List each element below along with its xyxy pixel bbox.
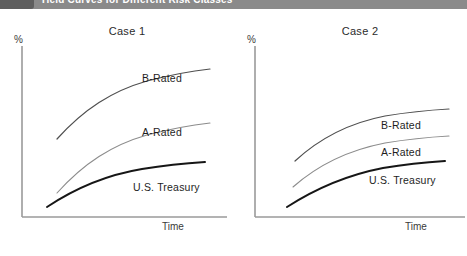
figure-title: Yield Curves for Different Risk Classes bbox=[40, 0, 233, 5]
chart-1-label-us-treasury: U.S. Treasury bbox=[133, 181, 200, 193]
figure-panel: Case 1 % Time B-Rated A-Rated U.S. Treas… bbox=[0, 9, 467, 256]
header-tab-marker bbox=[0, 0, 34, 9]
chart-2-plot bbox=[237, 9, 467, 256]
figure-container: Yield Curves for Different Risk Classes … bbox=[0, 0, 467, 256]
chart-1-plot bbox=[2, 9, 232, 256]
chart-case-1: Case 1 % Time B-Rated A-Rated U.S. Treas… bbox=[2, 9, 232, 256]
chart-2-label-a-rated: A-Rated bbox=[381, 146, 421, 158]
chart-1-label-a-rated: A-Rated bbox=[142, 126, 182, 138]
chart-1-label-b-rated: B-Rated bbox=[142, 72, 182, 84]
chart-case-2: Case 2 % Time B-Rated A-Rated U.S. Treas… bbox=[237, 9, 467, 256]
chart-2-label-us-treasury: U.S. Treasury bbox=[369, 174, 436, 186]
chart-2-label-b-rated: B-Rated bbox=[381, 119, 421, 131]
chart-1-curve-b-rated bbox=[57, 69, 210, 139]
chart-2-curve-b-rated bbox=[295, 109, 449, 161]
header-bar: Yield Curves for Different Risk Classes bbox=[0, 0, 467, 9]
